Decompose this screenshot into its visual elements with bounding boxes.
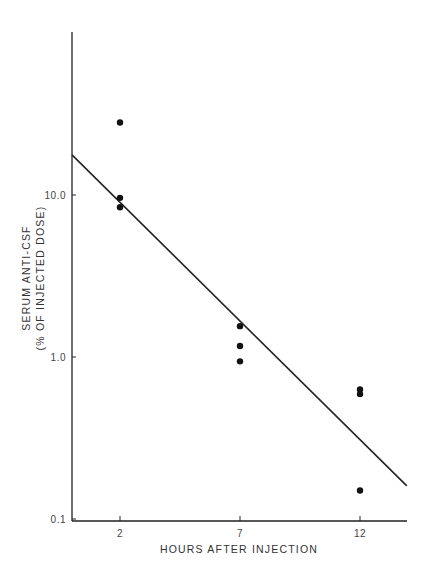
- y-tick-label: 0.1: [51, 514, 66, 525]
- y-axis-title: SERUM ANTI-CSF: [20, 225, 32, 330]
- data-point: [237, 358, 243, 364]
- data-point: [117, 119, 123, 125]
- data-point: [357, 391, 363, 397]
- x-tick-label: 12: [354, 528, 366, 539]
- x-tick-label: 2: [117, 528, 123, 539]
- data-point: [237, 323, 243, 329]
- axes: [72, 32, 407, 521]
- y-tick-label: 10.0: [45, 190, 66, 201]
- data-point: [357, 487, 363, 493]
- data-point: [117, 204, 123, 210]
- data-points: [117, 119, 363, 493]
- x-tick-label: 7: [237, 528, 243, 539]
- x-axis-title: HOURS AFTER INJECTION: [160, 543, 318, 555]
- regression-line: [72, 155, 407, 486]
- y-axis-title-line2: (% OF INJECTED DOSE): [34, 206, 46, 351]
- chart: 0.11.010.0 2712 HOURS AFTER INJECTION SE…: [0, 0, 439, 582]
- data-point: [237, 343, 243, 349]
- y-tick-label: 1.0: [51, 352, 66, 363]
- data-point: [117, 195, 123, 201]
- y-ticks: 0.11.010.0: [45, 190, 76, 525]
- x-ticks: 2712: [117, 516, 366, 539]
- fit-line: [72, 155, 407, 486]
